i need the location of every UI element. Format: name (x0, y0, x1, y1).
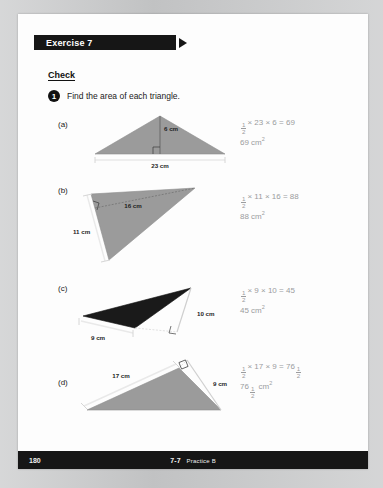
problem-c-answer-line1: 12× 9 × 10 = 45 (240, 284, 295, 303)
one-half-fraction-result: 12 (296, 366, 301, 379)
problem-d-answer-line2: 7612 cm2 (240, 379, 302, 399)
problem-c-unit-exponent: 2 (262, 304, 265, 310)
problem-b-label: (b) (58, 186, 68, 195)
problem-c-answer-line2: 45 cm2 (240, 303, 295, 318)
problem-a-unit-exponent: 2 (262, 136, 265, 142)
exercise-banner: Exercise 7 (34, 35, 187, 50)
problem-b-unit-exponent: 2 (262, 210, 265, 216)
problem-a-answer-line1: 12× 23 × 6 = 69 (240, 116, 295, 135)
problem-a-label: (a) (58, 120, 68, 129)
problem-d: (d) 17 cm 9 cm 12× 17 × 9 = 7612 7612 cm… (18, 354, 368, 434)
problem-a: (a) 23 cm 6 cm 12× 23 × 6 = 69 69 cm2 (18, 112, 368, 172)
problem-b-answer: 12× 11 × 16 = 88 88 cm2 (240, 190, 299, 224)
problem-a-figure: 23 cm 6 cm (73, 112, 233, 168)
one-half-fraction-unit: 12 (250, 386, 255, 399)
problem-b-figure: 11 cm 16 cm (73, 182, 233, 268)
problem-d-figure: 17 cm 9 cm (73, 354, 243, 430)
problem-b: (b) 11 cm 16 cm 12× 11 × 16 = 88 88 cm2 (18, 182, 368, 272)
footer-lesson-label: 7-7 Practice B (18, 457, 368, 464)
one-half-fraction: 12 (241, 290, 246, 303)
triangle-c-base-label: 9 cm (91, 334, 106, 341)
footer-practice-label: Practice B (187, 458, 216, 464)
triangle-c-shape (83, 288, 191, 328)
problem-d-label: (d) (58, 378, 68, 387)
exercise-title: Exercise 7 (46, 38, 93, 48)
exercise-banner-bar: Exercise 7 (34, 35, 176, 50)
problem-b-answer-line1: 12× 11 × 16 = 88 (240, 190, 299, 209)
problem-c-figure: 9 cm 10 cm (73, 276, 233, 342)
triangle-d-right-angle-icon (179, 360, 188, 369)
worksheet-page: Exercise 7 Check 1 Find the area of each… (18, 14, 368, 469)
problem-d-unit: cm (259, 382, 270, 391)
triangle-a-height-label: 6 cm (164, 125, 179, 132)
triangle-d-side-label: 17 cm (112, 372, 130, 379)
problem-b-answer-line2: 88 cm2 (240, 209, 299, 224)
triangle-c-right-angle-icon (169, 326, 176, 334)
one-half-fraction: 12 (241, 366, 246, 379)
problem-c-label: (c) (58, 284, 67, 293)
triangle-c-height-label: 10 cm (197, 310, 215, 317)
one-half-fraction: 12 (241, 122, 246, 135)
one-half-fraction: 12 (241, 196, 246, 209)
triangle-c-base-extension (135, 328, 177, 332)
problem-c-answer: 12× 9 × 10 = 45 45 cm2 (240, 284, 295, 318)
problem-d-answer-line1: 12× 17 × 9 = 7612 (240, 360, 302, 379)
triangle-b-height-label: 16 cm (124, 202, 142, 209)
triangle-d-side-tick-right (173, 361, 179, 367)
problem-d-unit-exponent: 2 (269, 380, 272, 386)
check-heading: Check (48, 70, 75, 80)
question-number-badge: 1 (48, 90, 60, 102)
banner-arrow-icon (179, 38, 187, 48)
instruction-text: Find the area of each triangle. (67, 91, 180, 101)
problem-c: (c) 9 cm 10 cm 12× 9 × 10 = 45 45 cm2 (18, 276, 368, 346)
triangle-d-side-tick-left (81, 403, 87, 409)
triangle-b-shape (91, 188, 195, 260)
footer-lesson-number: 7-7 (170, 457, 181, 464)
problem-a-answer: 12× 23 × 6 = 69 69 cm2 (240, 116, 295, 150)
problem-a-answer-line2: 69 cm2 (240, 135, 295, 150)
triangle-d-height-label: 9 cm (213, 380, 228, 387)
triangle-a-base-label: 23 cm (151, 162, 169, 169)
triangle-b-base-label: 11 cm (73, 228, 91, 235)
page-footer: 180 7-7 Practice B (18, 451, 368, 469)
instruction-row: 1 Find the area of each triangle. (48, 90, 180, 102)
problem-d-answer: 12× 17 × 9 = 7612 7612 cm2 (240, 360, 302, 399)
